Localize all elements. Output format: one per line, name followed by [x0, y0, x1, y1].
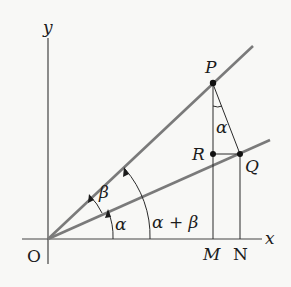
point-Q-label: Q	[245, 156, 259, 176]
point-P	[210, 80, 216, 86]
y-axis-label: y	[42, 17, 53, 37]
angle-label-beta: β	[98, 182, 109, 202]
geometry-diagram: y x O P R Q M N α β α α + β	[0, 0, 291, 287]
point-R	[210, 151, 216, 157]
point-P-label: P	[204, 57, 217, 77]
point-Q	[237, 151, 243, 157]
point-M-label: M	[202, 244, 221, 264]
diagram-canvas: y x O P R Q M N α β α α + β	[0, 0, 291, 287]
angle-label-alpha: α	[115, 214, 127, 234]
point-N-label: N	[233, 244, 248, 264]
ray-OP	[48, 46, 253, 239]
origin-label: O	[27, 246, 41, 266]
angle-label-alpha-at-P: α	[216, 117, 228, 137]
angle-arc-P	[213, 106, 222, 107]
angle-label-alpha-plus-beta: α + β	[152, 212, 199, 232]
x-axis-label: x	[265, 228, 275, 248]
point-R-label: R	[191, 144, 205, 164]
